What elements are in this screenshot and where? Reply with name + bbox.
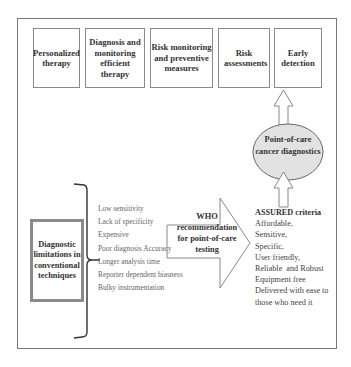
assured-item: Specific,: [255, 241, 328, 252]
assured-item: Equipment free: [255, 274, 328, 285]
limitation-item: Poor diagnosis Accuracy: [98, 242, 183, 255]
assured-item: those who need it: [255, 297, 328, 308]
limitation-item: Expensive: [98, 228, 183, 241]
limitation-item: Bulky instrumentation: [98, 281, 183, 294]
limitations-list: Low sensitivity Lack of specificity Expe…: [98, 202, 183, 294]
assured-item: User friendly,: [255, 252, 328, 263]
who-label: WHO recommendation for point-of-care tes…: [172, 211, 242, 255]
assured-item: Sensitive,: [255, 229, 328, 240]
assured-item: Delivered with ease to: [255, 285, 328, 296]
assured-item: Reliable and Robust: [255, 263, 328, 274]
limitation-item: Reporter dependent biasness: [98, 268, 183, 281]
assured-criteria: ASSURED criteria Affordable, Sensitive, …: [255, 207, 328, 308]
connectors-layer: [0, 0, 351, 367]
limitations-box: Diagnostic limitations in conventional t…: [30, 219, 84, 302]
limitation-item: Low sensitivity: [98, 202, 183, 215]
assured-title: ASSURED criteria: [255, 207, 328, 218]
limitation-item: Lack of specificity: [98, 215, 183, 228]
limitation-item: Longer analysis time: [98, 255, 183, 268]
assured-item: Affordable,: [255, 218, 328, 229]
poc-label: Point-of-care cancer diagnostics: [253, 134, 323, 158]
limitations-title: Diagnostic limitations in conventional t…: [33, 240, 81, 282]
